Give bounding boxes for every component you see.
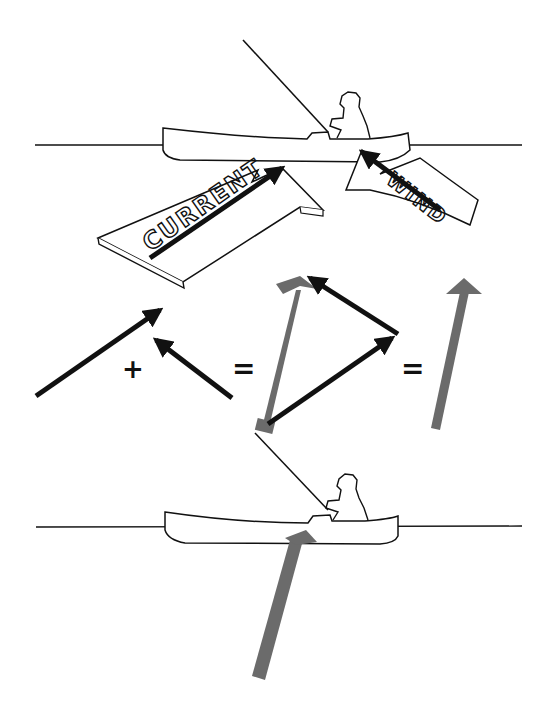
- resultant-arrow: [431, 278, 482, 430]
- resultant-arrow-bottom: [252, 530, 317, 680]
- fisherman-top: [330, 92, 370, 138]
- fisherman-bottom: [326, 474, 368, 520]
- diagram-canvas: CURRENT WIND + =: [0, 0, 547, 718]
- top-scene: CURRENT WIND: [35, 40, 522, 288]
- bottom-scene: [36, 433, 522, 680]
- vector-equation: + = =: [36, 276, 482, 434]
- fishing-rod-bottom: [255, 433, 328, 510]
- canoe-top: [163, 128, 410, 162]
- plus-sign: +: [122, 354, 144, 384]
- current-arrow: CURRENT: [98, 153, 323, 288]
- diagram-svg: CURRENT WIND + =: [0, 0, 547, 718]
- equals-sign-2: =: [401, 352, 424, 385]
- equals-sign-1: =: [232, 352, 255, 385]
- triangle-wind-vector: [310, 278, 398, 334]
- fishing-rod-top: [243, 40, 328, 132]
- wind-vector: [156, 340, 232, 398]
